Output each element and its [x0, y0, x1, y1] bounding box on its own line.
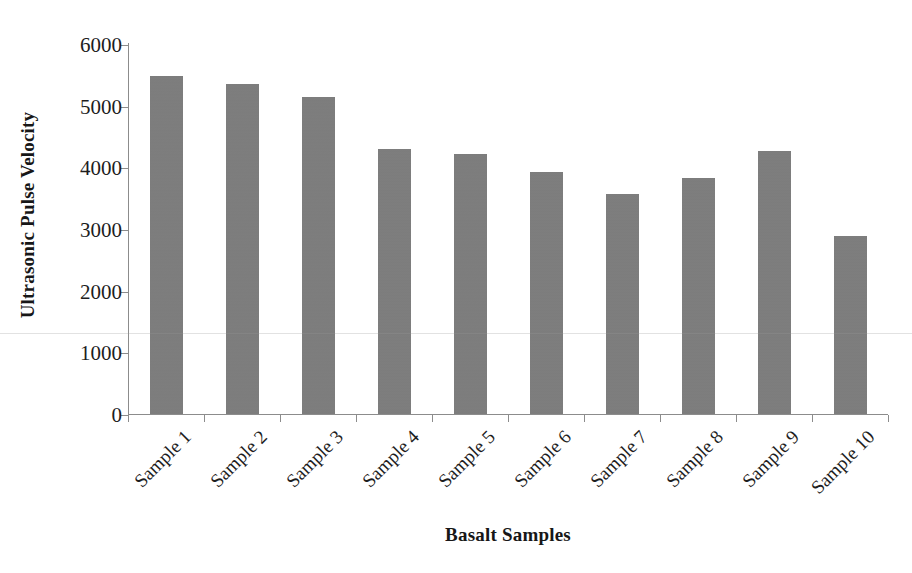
y-axis-tick-mark	[121, 107, 128, 108]
bar	[454, 154, 487, 414]
x-axis-tick-label-text: Sample 5	[434, 426, 500, 492]
y-axis-tick-mark	[121, 353, 128, 354]
x-axis-tick-label-text: Sample 3	[282, 426, 348, 492]
y-axis-tick-label: 6000	[80, 33, 122, 58]
y-axis-tick-label: 5000	[80, 94, 122, 119]
bar	[682, 178, 715, 414]
x-axis-tick-labels: Sample 1Sample 2Sample 3Sample 4Sample 5…	[128, 418, 888, 518]
plot-area: 0100020003000400050006000	[128, 45, 888, 415]
x-axis-tick-label-text: Sample 9	[738, 426, 804, 492]
y-axis-tick-label: 0	[112, 403, 123, 428]
x-axis-tick-label-text: Sample 6	[510, 426, 576, 492]
x-axis-tick-label-text: Sample 1	[130, 426, 196, 492]
bar	[530, 172, 563, 414]
x-axis-title-text: Basalt Samples	[445, 524, 571, 545]
bar	[378, 149, 411, 414]
bar	[834, 236, 867, 414]
y-axis-line	[128, 43, 129, 417]
y-axis-tick-mark	[121, 292, 128, 293]
y-axis-tick-label: 2000	[80, 279, 122, 304]
y-axis-tick-mark	[121, 168, 128, 169]
y-axis-tick-mark	[121, 230, 128, 231]
y-axis-tick-label: 4000	[80, 156, 122, 181]
y-axis-title-text: Ultrasonic Pulse Velocity	[17, 112, 39, 319]
bar	[302, 97, 335, 414]
x-axis-tick-label-text: Sample 8	[662, 426, 728, 492]
x-axis-tick-mark	[888, 415, 889, 422]
y-axis-tick-label: 1000	[80, 341, 122, 366]
bar	[606, 194, 639, 414]
y-axis-tick-mark	[121, 415, 128, 416]
x-axis-tick-label-text: Sample 7	[586, 426, 652, 492]
x-axis-title: Basalt Samples	[128, 524, 888, 546]
y-axis-tick-mark	[121, 45, 128, 46]
chart-figure: Ultrasonic Pulse Velocity 01000200030004…	[0, 0, 912, 573]
x-axis-tick-label-text: Sample 2	[206, 426, 272, 492]
x-axis-tick-label-text: Sample 4	[358, 426, 424, 492]
bar	[150, 76, 183, 414]
y-axis-tick-label: 3000	[80, 218, 122, 243]
bar	[226, 84, 259, 414]
bar	[758, 151, 791, 414]
x-axis-tick-label-text: Sample 10	[807, 426, 880, 499]
y-axis-title: Ultrasonic Pulse Velocity	[8, 0, 48, 430]
